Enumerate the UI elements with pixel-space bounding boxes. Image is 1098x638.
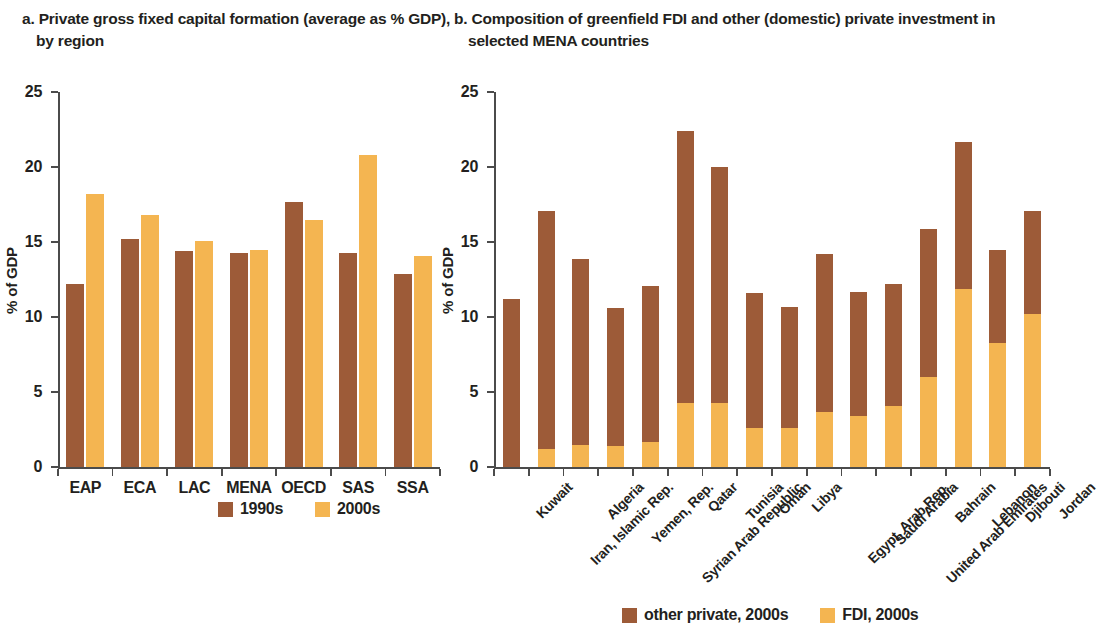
bar-other-private-iran-islamic-rep [538,211,555,450]
panel-a-y-axis-title: % of GDP [3,247,20,314]
y-axis-line [494,92,496,467]
x-axis-label-lac: LAC [179,479,211,497]
panel-a-legend-item: 2000s [315,500,380,518]
panel-b-legend-item: FDI, 2000s [820,606,918,624]
bar-2000s-lac [195,241,213,468]
y-axis-tick-label: 25 [436,83,478,101]
y-axis-tick-label: 20 [0,158,42,176]
bar-other-private-qatar [677,131,694,403]
x-axis-tick-mark [597,469,599,476]
x-axis-label-eca: ECA [124,479,157,497]
bar-other-private-bahrain [920,229,937,378]
panel-a-legend-item: 1990s [218,500,283,518]
x-axis-tick-mark [875,469,877,476]
x-axis-tick-mark [910,469,912,476]
x-axis-line [58,467,440,469]
bar-other-private-saudi-arabia [850,292,867,417]
x-axis-tick-mark [493,469,495,476]
y-axis-tick-mark [51,391,58,393]
bar-fdi-algeria [572,445,589,468]
bar-2000s-mena [250,250,268,468]
bar-fdi-saudi-arabia [850,416,867,467]
bar-fdi-united-arab-emirates [885,406,902,468]
x-axis-tick-mark [806,469,808,476]
x-axis-tick-mark [221,469,223,476]
x-axis-tick-mark [632,469,634,476]
panel-a-legend: 1990s2000s [218,500,402,518]
bar-1990s-eca [121,239,139,467]
x-axis-tick-mark [945,469,947,476]
bar-1990s-sas [339,253,357,468]
x-axis-tick-mark [330,469,332,476]
x-axis-label-mena: MENA [226,479,272,497]
bar-fdi-libya [781,428,798,467]
panel-b-plot-area: 0510152025 KuwaitIran, Islamic Rep.Alger… [494,92,1050,467]
x-axis-tick-mark [702,469,704,476]
bar-1990s-mena [230,253,248,468]
x-axis-tick-mark [771,469,773,476]
x-axis-tick-mark [275,469,277,476]
bar-1990s-eap [66,284,84,467]
panel-b-legend: other private, 2000sFDI, 2000s [622,606,940,624]
panel-a-legend-label: 1990s [240,500,283,518]
y-axis-tick-label: 25 [0,83,42,101]
x-axis-label-oecd: OECD [281,479,326,497]
bar-fdi-lebanon [955,289,972,468]
bar-fdi-tunisia [711,403,728,468]
y-axis-tick-mark [51,316,58,318]
x-axis-tick-mark [736,469,738,476]
x-axis-label-saudi-arabia: Saudi Arabia [892,479,961,548]
bar-other-private-djibouti [989,250,1006,343]
panel-b-legend-label: FDI, 2000s [842,606,918,624]
bar-1990s-lac [175,251,193,467]
panel-b-title: b. Composition of greenfield FDI and oth… [454,8,1058,53]
bar-1990s-ssa [394,274,412,468]
x-axis-tick-mark [385,469,387,476]
panel-b-legend-label: other private, 2000s [644,606,788,624]
y-axis-tick-mark [51,466,58,468]
bar-other-private-jordan [1024,211,1041,315]
bar-2000s-eca [141,215,159,467]
legend-swatch-icon [315,502,330,517]
bar-other-private-syrian-arab-republic [642,286,659,442]
x-axis-tick-mark [563,469,565,476]
bar-other-private-united-arab-emirates [885,284,902,406]
panel-a-plot-area: 0510152025 EAPECALACMENAOECDSASSSA [58,92,440,467]
y-axis-tick-mark [51,166,58,168]
legend-swatch-icon [218,502,233,517]
y-axis-tick-label: 5 [436,383,478,401]
bar-fdi-qatar [677,403,694,468]
bar-other-private-lebanon [955,142,972,289]
bar-fdi-egypt-arab-rep [816,412,833,468]
x-axis-tick-mark [841,469,843,476]
y-axis-tick-label: 0 [0,458,42,476]
x-axis-tick-mark [1014,469,1016,476]
x-axis-tick-mark [980,469,982,476]
y-axis-tick-mark [51,241,58,243]
bar-other-private-libya [781,307,798,429]
y-axis-tick-mark [487,466,494,468]
bar-fdi-iran-islamic-rep [538,449,555,467]
bar-other-private-tunisia [711,167,728,403]
bar-other-private-yemen-rep [607,308,624,446]
bar-fdi-jordan [1024,314,1041,467]
y-axis-tick-mark [487,166,494,168]
y-axis-tick-mark [487,241,494,243]
bar-fdi-oman [746,428,763,467]
panel-b-legend-item: other private, 2000s [622,606,788,624]
y-axis-tick-mark [487,316,494,318]
bar-fdi-bahrain [920,377,937,467]
panel-b-y-axis-title: % of GDP [439,247,456,314]
bar-fdi-yemen-rep [607,446,624,467]
y-axis-tick-mark [487,391,494,393]
x-axis-tick-mark [1049,469,1051,476]
x-axis-tick-mark [57,469,59,476]
x-axis-tick-mark [528,469,530,476]
y-axis-tick-mark [51,91,58,93]
y-axis-line [58,92,60,467]
bar-2000s-sas [359,155,377,467]
x-axis-label-ssa: SSA [397,479,429,497]
bar-other-private-algeria [572,259,589,445]
bar-other-private-kuwait [503,299,520,467]
